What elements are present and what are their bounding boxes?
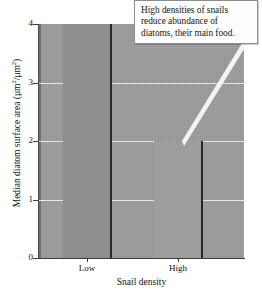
y-axis-title-prefix: Median diatom surface area (μm [12,84,22,208]
y-tick-0 [33,258,39,259]
annotation-callout: High densities of snails reduce abundanc… [134,0,258,44]
y-axis-title-sup2: 2 [10,62,17,65]
y-axis-title-mid: /μm [12,65,22,80]
x-axis-line [38,258,245,259]
y-axis-title-sup1: 2 [10,80,17,83]
x-tick-high [178,258,179,262]
callout-leader-line [180,40,246,148]
x-category-label-low: Low [52,263,122,274]
annotation-line-1: High densities of snails [141,5,252,16]
bar-chart-figure: 4 3 2 1 0 Low High Median diatom surface… [0,0,262,297]
annotation-line-2: reduce abundance of [141,16,252,27]
y-tick-label-0: 0 [3,253,33,262]
x-category-label-high: High [143,263,213,274]
y-tick-3 [33,83,39,84]
annotation-line-3: diatoms, their main food. [141,28,252,39]
y-tick-1 [33,200,39,201]
bar-low[interactable] [63,24,112,258]
bar-high[interactable] [154,141,203,258]
y-axis-title-suffix: ) [12,59,22,62]
x-tick-low [87,258,88,262]
y-tick-4 [33,24,39,25]
y-axis-title: Median diatom surface area (μm2/μm2) [12,18,22,248]
y-tick-2 [33,141,39,142]
x-axis-title: Snail density [39,277,244,288]
